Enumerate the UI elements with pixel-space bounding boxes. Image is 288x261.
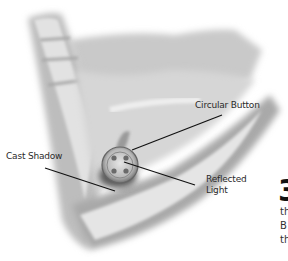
step-numeral: 3 [278,176,288,206]
side-text-line-3: th [280,234,288,246]
fabric-fold-illustration [0,0,288,261]
label-circular-button: Circular Button [195,100,260,110]
label-reflected-light-line2: Light [206,185,227,195]
label-cast-shadow: Cast Shadow [6,151,62,161]
side-text-line-2: B [280,220,287,232]
side-text-line-1: th [280,206,288,218]
label-reflected-light-line1: Reflected [206,174,247,184]
